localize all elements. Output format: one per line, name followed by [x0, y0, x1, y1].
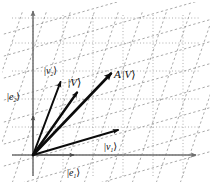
e2-ket: ⟩ — [16, 91, 20, 102]
figure-canvas: |e2⟩ |e1⟩ |v2⟩ |V⟩ A|V⟩ — [0, 0, 212, 184]
v2-ket: ⟩ — [53, 65, 57, 76]
vector-transformation-figure: |e2⟩ |e1⟩ |v2⟩ |V⟩ A|V⟩ — [0, 0, 212, 184]
AV-operator: A — [113, 68, 121, 80]
e1-ket: ⟩ — [76, 167, 80, 178]
vector-label-AV: A|V⟩ — [113, 68, 136, 80]
v1-ket: ⟩ — [113, 141, 117, 152]
AV-ket: ⟩ — [131, 68, 135, 80]
svg-text:|V⟩: |V⟩ — [68, 76, 81, 88]
svg-text:A|V⟩: A|V⟩ — [113, 68, 136, 80]
V-ket: ⟩ — [77, 76, 81, 88]
vector-label-V: |V⟩ — [68, 76, 81, 88]
